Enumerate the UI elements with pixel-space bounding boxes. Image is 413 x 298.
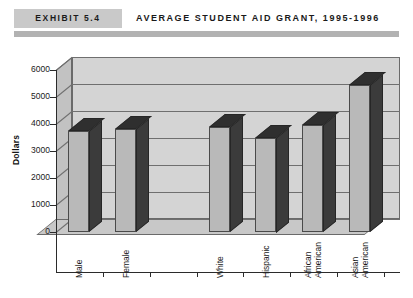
x-axis-tick [243, 272, 244, 277]
x-axis-category-label: Male [75, 260, 85, 278]
bar-front-face [115, 129, 136, 232]
bar-chart: 0100020003000400050006000 Dollars MaleFe… [0, 40, 413, 298]
x-axis-category-label: AfricanAmerican [304, 242, 323, 278]
x-axis-category-label: Female [122, 250, 132, 278]
y-axis-tick-label: 1000 [14, 199, 50, 209]
x-axis-tick [150, 272, 151, 277]
x-axis-tick [290, 272, 291, 277]
bar [255, 138, 276, 233]
y-axis-tick-label: 0 [14, 226, 50, 236]
x-axis-category-label-line: Male [75, 260, 85, 278]
bar-side-face [276, 127, 289, 232]
exhibit-title: AVERAGE STUDENT AID GRANT, 1995-1996 [136, 9, 380, 28]
y-axis-tick [50, 97, 57, 98]
bar-side-face [230, 116, 243, 232]
bar [115, 129, 136, 232]
bar-side-face [370, 74, 383, 232]
bar-front-face [68, 131, 89, 232]
y-axis-tick [50, 124, 57, 125]
gridline [72, 57, 400, 58]
x-axis-tick [337, 272, 338, 277]
x-axis-category-label-line: American [314, 242, 324, 278]
bar [302, 125, 323, 232]
y-axis-tick [50, 178, 57, 179]
y-axis-tick [50, 151, 57, 152]
bar [349, 85, 370, 232]
x-axis-line [56, 272, 400, 273]
bar-front-face [209, 127, 230, 232]
x-axis-tick [103, 272, 104, 277]
bar [68, 131, 89, 232]
y-axis-tick [50, 70, 57, 71]
x-axis-category-label-line: White [216, 256, 226, 278]
y-axis-tick [50, 205, 57, 206]
x-axis-category-label: AsianAmerican [351, 242, 370, 278]
y-axis-line [56, 70, 57, 272]
y-axis-title: Dollars [11, 120, 21, 180]
x-axis-category-label-line: Female [122, 250, 132, 278]
exhibit-number-box: EXHIBIT 5.4 [14, 9, 122, 28]
y-axis-tick [50, 232, 57, 233]
bar-side-face [323, 115, 336, 232]
x-axis-tick [197, 272, 198, 277]
x-axis-tick [384, 272, 385, 277]
bar-side-face [89, 120, 102, 232]
exhibit-header: EXHIBIT 5.4 AVERAGE STUDENT AID GRANT, 1… [0, 0, 413, 40]
plot-area: 0100020003000400050006000 Dollars MaleFe… [0, 40, 413, 298]
exhibit-number-label: EXHIBIT 5.4 [14, 9, 122, 28]
bar-front-face [302, 125, 323, 232]
bar-front-face [349, 85, 370, 232]
header-rule [14, 31, 399, 37]
y-axis-tick-label: 6000 [14, 64, 50, 74]
x-axis-category-label: White [216, 256, 226, 278]
x-axis-category-label: Hispanic [262, 245, 272, 278]
bar-front-face [255, 138, 276, 233]
y-axis-tick-label: 5000 [14, 91, 50, 101]
x-axis-category-label-line: Hispanic [262, 245, 272, 278]
x-axis-category-label-line: American [361, 242, 371, 278]
bar-side-face [136, 119, 149, 232]
bar [209, 127, 230, 232]
